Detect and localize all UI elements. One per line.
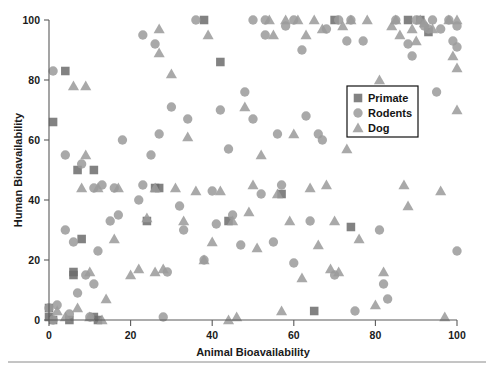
legend-label: Primate (368, 92, 408, 104)
data-point-triangle (313, 240, 324, 250)
data-point-square (347, 223, 356, 232)
data-point-triangle (325, 264, 336, 274)
data-point-circle (106, 216, 115, 225)
data-point-circle (73, 288, 82, 297)
data-point-triangle (309, 15, 320, 25)
data-point-triangle (374, 75, 385, 85)
y-tick-label: 0 (34, 314, 40, 326)
data-point-circle (379, 279, 388, 288)
data-point-triangle (190, 186, 201, 196)
data-point-triangle (203, 30, 214, 40)
y-axis-label: Human Bioavailability (12, 112, 24, 227)
y-tick-label: 60 (28, 134, 40, 146)
x-tick-label: 100 (448, 329, 466, 341)
data-point-square (310, 307, 319, 316)
data-point-circle (452, 42, 461, 51)
square-legend-icon (354, 94, 363, 103)
axes-layer: 020406080100 020406080100 (22, 14, 465, 341)
data-point-circle (89, 279, 98, 288)
data-point-triangle (76, 183, 87, 193)
series-primate (45, 16, 433, 325)
data-point-circle (240, 87, 249, 96)
data-point-square (69, 268, 78, 277)
data-point-circle (256, 189, 265, 198)
data-point-triangle (109, 234, 120, 244)
data-point-circle (289, 258, 298, 267)
data-point-triangle (341, 144, 352, 154)
data-point-circle (216, 105, 225, 114)
x-tick-label: 0 (46, 329, 52, 341)
data-point-triangle (378, 267, 389, 277)
data-point-circle (236, 240, 245, 249)
data-point-circle (183, 114, 192, 123)
data-point-triangle (243, 207, 254, 217)
figure-canvas: 020406080100 020406080100 Animal Bioavai… (0, 0, 494, 378)
data-point-square (77, 235, 86, 244)
data-point-circle (179, 225, 188, 234)
data-point-triangle (362, 15, 373, 25)
data-markers-layer (44, 15, 462, 325)
data-point-circle (297, 45, 306, 54)
y-tick-label: 20 (28, 254, 40, 266)
data-point-circle (191, 15, 200, 24)
data-point-triangle (407, 24, 418, 34)
data-point-circle (224, 144, 233, 153)
data-point-triangle (80, 150, 91, 160)
x-axis-label: Animal Bioavailability (196, 346, 311, 358)
legend-item-primate[interactable]: Primate (354, 92, 409, 104)
data-point-circle (432, 87, 441, 96)
data-point-circle (342, 36, 351, 45)
data-point-circle (350, 306, 359, 315)
data-point-triangle (207, 237, 218, 247)
data-point-circle (175, 201, 184, 210)
legend-label: Dog (368, 122, 389, 134)
data-point-triangle (411, 36, 422, 46)
data-point-circle (269, 237, 278, 246)
data-point-triangle (247, 180, 258, 190)
data-point-circle (69, 237, 78, 246)
data-point-circle (318, 135, 327, 144)
series-rodents (44, 15, 461, 324)
data-point-circle (61, 225, 70, 234)
data-point-circle (403, 39, 412, 48)
y-axis-ticks: 020406080100 (22, 14, 49, 326)
data-point-circle (407, 51, 416, 60)
data-point-circle (114, 210, 123, 219)
data-point-triangle (451, 63, 462, 73)
data-point-circle (167, 102, 176, 111)
data-point-square (90, 166, 99, 175)
data-point-triangle (182, 132, 193, 142)
data-point-triangle (154, 24, 165, 34)
data-point-circle (273, 129, 282, 138)
data-point-circle (134, 195, 143, 204)
legend-item-dog[interactable]: Dog (352, 122, 389, 134)
y-tick-label: 40 (28, 194, 40, 206)
data-point-triangle (284, 216, 295, 226)
data-point-circle (154, 129, 163, 138)
data-point-circle (61, 150, 70, 159)
data-point-triangle (166, 69, 177, 79)
data-point-triangle (72, 303, 83, 313)
data-point-triangle (354, 234, 365, 244)
data-point-triangle (239, 102, 250, 112)
data-point-circle (248, 114, 257, 123)
data-point-circle (48, 66, 57, 75)
data-point-triangle (252, 243, 263, 253)
data-point-circle (305, 216, 314, 225)
data-point-triangle (154, 48, 165, 58)
data-point-circle (452, 246, 461, 255)
data-point-triangle (80, 81, 91, 91)
data-point-circle (383, 294, 392, 303)
data-point-square (404, 16, 413, 25)
data-point-triangle (101, 294, 112, 304)
data-point-triangle (288, 129, 299, 139)
data-point-circle (146, 150, 155, 159)
data-point-circle (358, 36, 367, 45)
series-dog (52, 15, 463, 325)
data-point-triangle (447, 51, 458, 61)
data-point-circle (150, 39, 159, 48)
x-tick-label: 80 (370, 329, 382, 341)
y-tick-label: 80 (28, 74, 40, 86)
x-tick-label: 60 (288, 329, 300, 341)
data-point-circle (375, 225, 384, 234)
